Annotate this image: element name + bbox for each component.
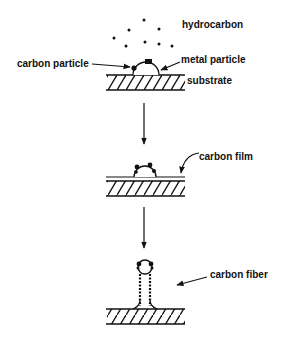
label-metal-particle: metal particle [181,55,245,65]
carbon-particle-marker [131,65,136,70]
metal-particle-dome-1 [131,59,159,75]
substrate-1 [106,75,185,90]
metal-particle-dome-2 [134,163,156,177]
label-substrate: substrate [187,76,232,86]
carbon-fiber-stalk [133,274,157,309]
metal-particle-marker [145,59,152,64]
carbon-fiber-arrow [177,277,207,285]
label-carbon-fiber: carbon fiber [210,270,268,280]
hydrocarbon-dots [113,19,174,48]
label-carbon-particle: carbon particle [17,59,89,69]
label-carbon-film: carbon film [199,152,253,162]
substrate-2 [106,177,185,196]
carbon-particle-arrow [92,64,130,67]
diagram-canvas [0,0,282,337]
metal-particle-tip [137,260,154,274]
substrate-3 [106,309,185,324]
metal-particle-arrow [161,62,180,70]
carbon-film-arrow [181,153,199,173]
label-hydrocarbon: hydrocarbon [182,20,243,30]
